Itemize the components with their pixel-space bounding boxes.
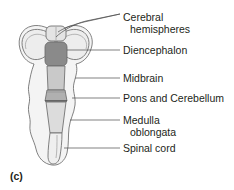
label-cerebral-hemispheres-line2: hemispheres — [130, 23, 190, 35]
label-spinal-cord: Spinal cord — [123, 142, 176, 154]
pons-and-cerebellum-shape — [45, 90, 67, 101]
figure-panel: Cerebral hemispheres Diencephalon Midbra… — [0, 0, 234, 190]
label-diencephalon: Diencephalon — [123, 44, 187, 56]
label-pons-and-cerebellum: Pons and Cerebellum — [123, 92, 224, 104]
label-cerebral-hemispheres-line1: Cerebral — [123, 11, 163, 23]
label-midbrain: Midbrain — [123, 72, 163, 84]
label-medulla-oblongata-line2: oblongata — [130, 126, 176, 138]
label-medulla-oblongata-line1: Medulla — [123, 114, 160, 126]
medulla-oblongata-shape — [46, 102, 66, 133]
diencephalon-shape — [45, 42, 67, 66]
panel-label: (c) — [10, 170, 23, 182]
midbrain-shape — [47, 66, 65, 90]
brain-diagram: Cerebral hemispheres Diencephalon Midbra… — [0, 0, 234, 190]
